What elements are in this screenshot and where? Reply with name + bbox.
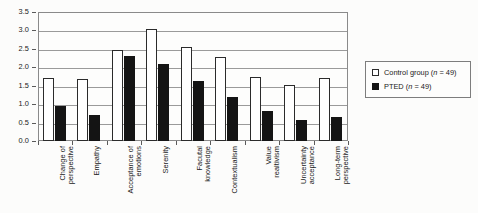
bar-pted (296, 120, 307, 141)
y-tick-mark (32, 12, 36, 13)
y-tick-label: 2.0 (18, 63, 29, 71)
x-axis-category-label: Empathy (93, 146, 101, 212)
bar-control-group (215, 57, 226, 141)
bar-pted (158, 64, 169, 141)
bar-control-group (112, 50, 123, 141)
x-axis-category-label: Value realtivism (265, 146, 282, 212)
bars-layer (38, 12, 348, 141)
bar-pted (227, 97, 238, 141)
bar-group (112, 12, 135, 141)
legend-label: Control group (n = 49) (384, 69, 457, 77)
bar-group (146, 12, 169, 141)
bar-pted (193, 81, 204, 141)
x-axis-category-label: Facutal knowledge (196, 146, 213, 212)
chart-legend: Control group (n = 49)PTED (n = 49) (365, 61, 471, 98)
bar-group (284, 12, 307, 141)
y-tick-label: 1.5 (18, 82, 29, 90)
y-tick-label: 1.0 (18, 100, 29, 108)
bar-group (319, 12, 342, 141)
bar-control-group (77, 79, 88, 141)
y-tick-mark (32, 123, 36, 124)
bar-pted (55, 106, 66, 141)
x-tick-mark (72, 141, 73, 145)
x-tick-mark (245, 141, 246, 145)
x-axis-category-label: Uncertainty acceptance (300, 146, 317, 212)
y-tick-mark (32, 49, 36, 50)
bar-control-group (146, 29, 157, 141)
y-tick-label: 3.0 (18, 26, 29, 34)
legend-item: Control group (n = 49) (372, 67, 465, 78)
bar-group (77, 12, 100, 141)
y-tick-label: 3.5 (18, 8, 29, 16)
bar-pted (89, 115, 100, 141)
legend-swatch-control-group (372, 69, 379, 76)
x-tick-mark (38, 141, 39, 145)
y-tick-mark (32, 30, 36, 31)
x-axis-category-label: Change of perspective (59, 146, 76, 212)
bar-group (43, 12, 66, 141)
bar-pted (331, 117, 342, 141)
legend-item: PTED (n = 49) (372, 81, 465, 92)
y-tick-label: 0.5 (18, 119, 29, 127)
x-axis-category-label: Serenity (162, 146, 170, 212)
y-tick-mark (32, 86, 36, 87)
x-axis-category-label: Acceptance of emotions (127, 146, 144, 212)
x-tick-mark (210, 141, 211, 145)
x-axis-category-label: Long-term perspective (334, 146, 351, 212)
bar-chart-figure: 0.00.51.01.52.02.53.03.5 Change of persp… (0, 0, 478, 213)
y-tick-mark (32, 104, 36, 105)
x-tick-mark (141, 141, 142, 145)
x-tick-mark (314, 141, 315, 145)
x-axis-category-label: Contextualism (231, 146, 239, 212)
x-tick-mark (348, 141, 349, 145)
bar-control-group (319, 78, 330, 141)
x-tick-mark (176, 141, 177, 145)
y-tick-label: 0.0 (18, 137, 29, 145)
bar-group (250, 12, 273, 141)
y-tick-mark (32, 67, 36, 68)
bar-control-group (43, 78, 54, 141)
bar-control-group (181, 47, 192, 141)
y-tick-label: 2.5 (18, 45, 29, 53)
bar-pted (124, 56, 135, 142)
x-axis-labels: Change of perspectiveEmpathyAcceptance o… (38, 146, 348, 213)
bar-pted (262, 111, 273, 141)
y-axis: 0.00.51.01.52.02.53.03.5 (0, 0, 36, 155)
bar-control-group (284, 85, 295, 141)
bar-group (215, 12, 238, 141)
legend-label: PTED (n = 49) (384, 83, 431, 91)
bar-group (181, 12, 204, 141)
legend-swatch-pted (372, 83, 379, 90)
x-tick-mark (279, 141, 280, 145)
x-tick-mark (107, 141, 108, 145)
y-tick-mark (32, 141, 36, 142)
bar-control-group (250, 77, 261, 141)
